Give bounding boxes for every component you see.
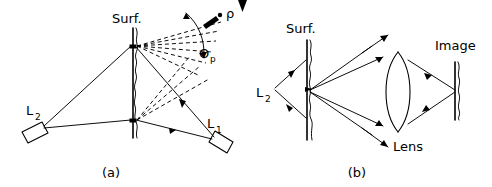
- laser-source-l2-a: [22, 122, 48, 143]
- source-l1-sub-a: 1: [216, 125, 222, 135]
- panel-a-caption: (a): [102, 165, 120, 180]
- scattered-ray-fan-a: [137, 22, 221, 120]
- incident-ray-arrow-upper-icon: [288, 70, 295, 78]
- source-l2-label-a: L: [26, 103, 34, 118]
- lens-b: [386, 52, 410, 132]
- panel-a-group: Surf. L 2 L 1: [22, 6, 234, 180]
- source-l1-label-a: L: [207, 116, 215, 131]
- image-ray-arrow-lower-icon: [422, 105, 430, 112]
- image-plane-b: [455, 62, 460, 120]
- panel-b-caption: (b): [348, 165, 366, 180]
- panel-b-group: Surf. L 2: [256, 21, 476, 180]
- incident-rays-b: [275, 60, 306, 118]
- lens-label-b: Lens: [393, 139, 423, 154]
- ray-paths-a: [44, 46, 214, 139]
- imaging-rays-b: [408, 60, 455, 124]
- escaping-ray-arrow-bottom-icon: [380, 140, 388, 147]
- source-l2-label-b: L: [256, 85, 264, 100]
- theta-sub-a: p: [210, 54, 216, 64]
- figure-root: Surf. L 2 L 1: [0, 0, 492, 187]
- image-label-b: Image: [435, 38, 476, 53]
- scattered-rays-b: [310, 35, 388, 147]
- source-l2-sub-a: 2: [35, 112, 41, 122]
- stray-marker-icon: [238, 0, 247, 12]
- detector-rho-label-a: ρ: [226, 6, 234, 21]
- source-l2-sub-b: 2: [265, 94, 271, 104]
- theta-label-a: Θ: [199, 46, 209, 61]
- escaping-ray-arrow-top-icon: [380, 35, 388, 42]
- detector-rho-a: [203, 13, 222, 29]
- surface-label-b: Surf.: [286, 21, 316, 36]
- surface-label-a: Surf.: [112, 11, 142, 26]
- optics-figure-svg: Surf. L 2 L 1: [0, 0, 492, 187]
